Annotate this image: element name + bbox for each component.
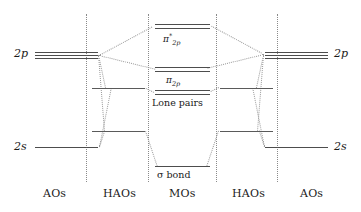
column-label-haos-right: HAOs xyxy=(232,188,265,199)
level-mo-lone-pairs-a xyxy=(155,90,210,91)
label-pi-star-sub: 2p xyxy=(172,39,180,47)
label-mo-lone-pairs: Lone pairs xyxy=(152,98,203,108)
column-label-mos: MOs xyxy=(169,188,196,199)
label-mo-pi-star: π*2p xyxy=(163,33,180,46)
column-divider-2 xyxy=(148,14,149,182)
correlation-line-left-hao-upper-to-lonepairs xyxy=(146,88,155,93)
column-label-haos-left: HAOs xyxy=(103,188,136,199)
column-divider-4 xyxy=(277,14,278,182)
label-pi-sub: 2p xyxy=(172,80,180,88)
level-ao-left-2s xyxy=(35,147,98,148)
correlation-line-right-hao-lower-to-sigma xyxy=(206,131,219,166)
label-ao-right-2p: 2p xyxy=(334,48,348,59)
label-ao-left-2s: 2s xyxy=(14,141,27,152)
label-ao-left-2p: 2p xyxy=(14,48,28,59)
level-ao-right-2s xyxy=(265,147,328,148)
level-ao-right-2p-c xyxy=(265,58,328,59)
label-mo-sigma-bond: σ bond xyxy=(157,170,191,180)
level-mo-pi-b xyxy=(155,71,210,72)
level-hao-right-lower xyxy=(220,131,273,132)
correlation-line-right-hao-upper-to-lonepairs xyxy=(210,87,219,92)
level-mo-pi-star-a xyxy=(155,24,210,25)
correlation-line-right-2s-to-hao-upper xyxy=(252,88,265,147)
correlation-line-left-2p-to-pi xyxy=(99,55,155,70)
level-mo-sigma-bond xyxy=(155,166,210,167)
level-ao-left-2p-a xyxy=(35,52,98,53)
level-mo-lone-pairs-b xyxy=(155,94,210,95)
correlation-line-right-2p-to-pistar xyxy=(211,26,264,55)
column-divider-1 xyxy=(86,14,87,182)
level-ao-left-2p-c xyxy=(35,58,98,59)
correlation-line-left-2p-to-pistar xyxy=(99,27,152,56)
column-divider-3 xyxy=(216,14,217,182)
level-ao-right-2p-b xyxy=(265,55,328,56)
level-hao-right-upper xyxy=(220,88,273,89)
correlation-line-left-hao-lower-to-sigma xyxy=(145,131,158,166)
level-hao-left-upper xyxy=(92,88,145,89)
column-label-aos-left: AOs xyxy=(43,188,66,199)
level-ao-right-2p-a xyxy=(265,52,328,53)
level-ao-left-2p-b xyxy=(35,55,98,56)
level-mo-pi-star-b xyxy=(155,28,210,29)
label-sigma-greek: σ xyxy=(157,169,164,180)
label-ao-right-2s: 2s xyxy=(334,141,347,152)
label-sigma-word: bond xyxy=(167,169,191,180)
label-mo-pi: π2p xyxy=(166,76,180,87)
column-label-aos-right: AOs xyxy=(300,188,323,199)
level-hao-left-lower xyxy=(92,131,145,132)
level-mo-pi-a xyxy=(155,67,210,68)
mo-correlation-diagram: 2p 2s 2p 2s π*2p π2p Lone pairs σ bond A… xyxy=(0,0,361,212)
